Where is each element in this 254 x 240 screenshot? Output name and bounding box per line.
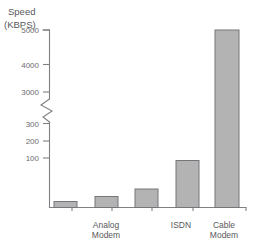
x-category-label-analog-line-2: Modem (92, 230, 120, 240)
x-category-label-isdn: ISDN (171, 220, 191, 230)
y-tick-label-5000: 5000 (21, 26, 39, 35)
y-tick-label-100: 100 (26, 154, 40, 163)
y-tick-label-200: 200 (26, 137, 40, 146)
bar-0 (54, 202, 77, 208)
bar-3 (176, 161, 199, 208)
x-category-label-cable-line-1: Cable (213, 220, 235, 230)
y-tick-label-4000: 4000 (21, 61, 39, 70)
bar-1 (95, 197, 118, 208)
chart-canvas: Speed (KBPS) 5000 4000 3000 300 200 100 (0, 0, 254, 240)
bar-4 (215, 30, 239, 208)
x-category-label-cable-line-2: Modem (210, 230, 238, 240)
y-tick-label-300: 300 (26, 120, 40, 129)
y-axis-break-icon (41, 99, 52, 122)
bar-chart-figure: Speed (KBPS) 5000 4000 3000 300 200 100 (0, 0, 254, 240)
x-category-label-analog-line-1: Analog (93, 220, 120, 230)
y-axis-title-line-1: Speed (8, 6, 35, 17)
y-tick-label-3000: 3000 (21, 88, 39, 97)
bar-2 (135, 189, 158, 208)
